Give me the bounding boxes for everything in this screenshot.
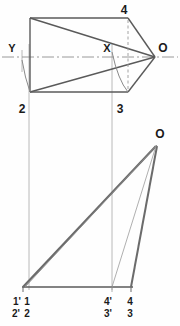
label-4-front: 4: [127, 296, 133, 307]
label-2-top: 2: [19, 102, 26, 116]
label-Y-top: Y: [8, 42, 16, 54]
label-3-top: 3: [117, 102, 124, 116]
label-2prime-front: 2': [12, 308, 20, 319]
front-view-edge-2-to-O-thin: [25, 145, 157, 287]
technical-drawing-canvas: 4 O Y X 2 3 O 1' 1 2' 2 4' 4 3' 3: [0, 0, 180, 326]
construction-arc-x-to-3: [112, 52, 128, 92]
top-view-edge-4-to-O: [128, 18, 155, 57]
label-O-top: O: [158, 41, 167, 55]
label-1prime-front: 1': [13, 296, 21, 307]
construction-lines: [22, 44, 112, 290]
drawing-sheet: 4 O Y X 2 3 O 1' 1 2' 2 4' 4 3' 3: [0, 0, 180, 326]
top-view-group: [22, 18, 155, 92]
top-view-diagonal-lower: [30, 57, 155, 92]
label-O-front: O: [155, 127, 164, 141]
top-view-edge-3-to-O: [128, 57, 155, 92]
label-X-top: X: [103, 42, 111, 54]
label-1-front: 1: [24, 296, 30, 307]
top-view-diagonal-upper: [30, 18, 155, 57]
label-4prime-front: 4': [104, 296, 112, 307]
label-4-top: 4: [121, 3, 128, 17]
label-2-front: 2: [24, 308, 30, 319]
front-view-group: [22, 145, 157, 292]
label-3-front: 3: [127, 308, 133, 319]
label-3prime-front: 3': [104, 308, 112, 319]
